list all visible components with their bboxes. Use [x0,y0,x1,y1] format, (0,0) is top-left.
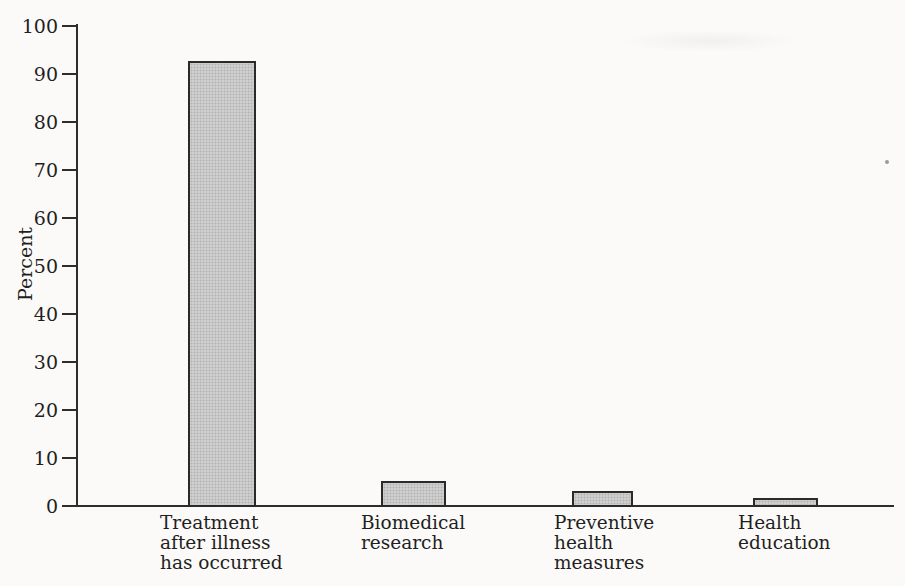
y-tick-label: 30 [8,351,58,373]
y-tick-mark [62,361,78,363]
bar-4 [753,498,818,507]
y-tick-mark [62,217,78,219]
bar-chart: Percent 0102030405060708090100 Treatment… [0,0,905,586]
y-tick-label: 10 [8,447,58,469]
y-tick-mark [62,265,78,267]
y-tick-label: 40 [8,303,58,325]
y-tick-label: 60 [8,207,58,229]
y-tick-label: 90 [8,63,58,85]
bar-2 [381,481,446,507]
y-tick-mark [62,169,78,171]
y-tick-mark [62,409,78,411]
scan-speck [885,160,889,164]
y-tick-mark [62,73,78,75]
scan-smudge [620,30,800,52]
y-tick-mark [62,457,78,459]
y-tick-label: 80 [8,111,58,133]
y-tick-mark [62,313,78,315]
bar-3 [572,491,633,507]
y-tick-label: 0 [8,495,58,517]
y-tick-mark [62,505,78,507]
y-tick-mark [62,121,78,123]
y-tick-label: 50 [8,255,58,277]
y-tick-mark [62,25,78,27]
x-category-label-3: Preventive health measures [554,513,654,573]
bar-1 [188,61,256,507]
y-tick-label: 20 [8,399,58,421]
y-tick-label: 100 [8,15,58,37]
y-tick-label: 70 [8,159,58,181]
x-category-label-2: Biomedical research [361,513,465,553]
x-category-label-4: Health education [738,513,831,553]
x-category-label-1: Treatment after illness has occurred [160,513,283,573]
